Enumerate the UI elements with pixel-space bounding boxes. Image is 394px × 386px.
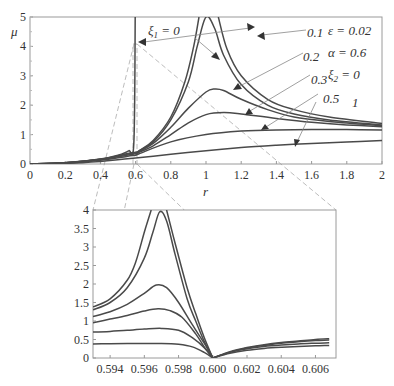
x-tick-label: 1.6 — [304, 168, 319, 182]
y-tick-label: 2 — [83, 277, 89, 291]
label-1: 1 — [352, 95, 359, 110]
series-curve — [30, 130, 382, 164]
y-tick-label: 5 — [20, 10, 26, 24]
x-tick-label: 0.602 — [234, 362, 261, 376]
y-tick-label: 4 — [20, 39, 26, 53]
y-tick-label: 2.5 — [74, 259, 89, 273]
y-tick-label: 2 — [20, 98, 26, 112]
x-axis-label: r — [203, 184, 209, 199]
y-tick-label: 0 — [83, 351, 89, 365]
x-tick-label: 0.596 — [131, 362, 158, 376]
param-epsilon: ε = 0.02 — [328, 23, 372, 38]
y-tick-label: 3 — [20, 69, 26, 83]
label-0.3: 0.3 — [311, 72, 328, 87]
main-plot: 00.20.40.60.811.21.41.61.82012345 μ r ξ1… — [10, 10, 385, 199]
param-alpha: α = 0.6 — [328, 45, 367, 60]
y-tick-label: 0 — [20, 157, 26, 171]
param-xi2: ξ2 = 0 — [328, 67, 360, 84]
y-tick-label: 1 — [20, 128, 26, 142]
y-tick-label: 1 — [83, 314, 89, 328]
x-tick-label: 0 — [27, 168, 33, 182]
x-tick-label: 0.4 — [93, 168, 108, 182]
y-tick-label: 0.5 — [74, 333, 89, 347]
x-tick-label: 1.2 — [234, 168, 249, 182]
y-tick-label: 3.5 — [74, 222, 89, 236]
x-tick-label: 0.2 — [58, 168, 73, 182]
x-tick-label: 0.604 — [268, 362, 295, 376]
chart-figure: 00.20.40.60.811.21.41.61.82012345 μ r ξ1… — [0, 0, 394, 386]
inset-plot: 0.5940.5960.5980.6000.6020.6040.60600.51… — [74, 203, 336, 376]
y-axis-label: μ — [10, 24, 18, 39]
x-tick-label: 0.6 — [128, 168, 143, 182]
x-tick-label: 1.8 — [339, 168, 354, 182]
series-curve — [30, 141, 382, 165]
x-tick-label: 0.594 — [97, 362, 124, 376]
x-tick-label: 1.4 — [269, 168, 284, 182]
y-tick-label: 1.5 — [74, 296, 89, 310]
parameter-legend: ε = 0.02 α = 0.6 ξ2 = 0 — [328, 23, 372, 84]
y-tick-label: 3 — [83, 240, 89, 254]
x-tick-label: 0.8 — [163, 168, 178, 182]
x-tick-label: 0.606 — [302, 362, 329, 376]
x-tick-label: 0.598 — [165, 362, 192, 376]
label-xi1-zero: ξ1 = 0 — [148, 23, 180, 40]
label-0.5: 0.5 — [323, 91, 340, 106]
x-tick-label: 0.600 — [199, 362, 226, 376]
label-0.2: 0.2 — [303, 49, 320, 64]
series-curve — [30, 17, 135, 164]
y-tick-label: 4 — [83, 203, 89, 217]
x-tick-label: 1 — [203, 168, 209, 182]
label-0.1: 0.1 — [307, 25, 323, 40]
x-tick-label: 2 — [379, 168, 385, 182]
